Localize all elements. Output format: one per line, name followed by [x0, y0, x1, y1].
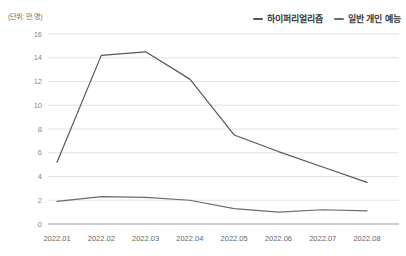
y-tick-label: 14 — [34, 53, 42, 62]
y-tick-label: 4 — [38, 172, 42, 181]
x-tick-label: 2022.05 — [221, 234, 248, 243]
y-tick-label: 16 — [34, 30, 42, 39]
y-tick-label: 2 — [38, 196, 42, 205]
series-line-1 — [57, 197, 367, 212]
y-tick-label: 8 — [38, 125, 42, 134]
x-tick-label: 2022.03 — [132, 234, 159, 243]
x-tick-label: 2022.08 — [353, 234, 380, 243]
x-tick-label: 2022.06 — [265, 234, 292, 243]
series-line-0 — [57, 52, 367, 183]
x-tick-label: 2022.04 — [176, 234, 203, 243]
x-tick-label: 2022.07 — [309, 234, 336, 243]
y-tick-label: 10 — [34, 101, 42, 110]
line-chart: 02468101214162022.012022.022022.032022.0… — [0, 0, 406, 256]
chart-panel: (단위: 만 명) 하이퍼리얼리즘 일반 개인 예능 0246810121416… — [0, 0, 406, 256]
x-tick-label: 2022.02 — [88, 234, 115, 243]
y-tick-label: 0 — [38, 220, 42, 229]
x-tick-label: 2022.01 — [43, 234, 70, 243]
y-tick-label: 12 — [34, 77, 42, 86]
y-tick-label: 6 — [38, 148, 42, 157]
